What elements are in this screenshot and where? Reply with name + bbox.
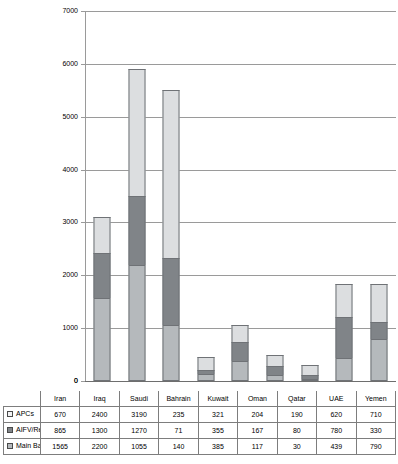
table-cell-saudi: 3190 <box>119 407 158 423</box>
table-cell-iraq: 2400 <box>80 407 119 423</box>
bar-segment <box>267 366 284 375</box>
bars-layer <box>85 11 396 381</box>
bar-column-qatar[interactable] <box>292 11 327 381</box>
table-cell-iraq: 1300 <box>80 423 119 439</box>
table-cell-qatar: 190 <box>277 407 316 423</box>
table-cell-bahrain: 71 <box>159 423 198 439</box>
bar-column-bahrain[interactable] <box>189 11 224 381</box>
table-row: AIFV/Recce/Lt. Tanks86513001270713551678… <box>4 423 396 439</box>
table-header-row: IranIraqSaudiBahrainKuwaitOmanQatarUAEYe… <box>4 391 396 407</box>
table-col-header-yemen: Yemen <box>356 391 395 407</box>
table-cell-yemen: 710 <box>356 407 395 423</box>
plot-wrapper: 010002000300040005000600070000 <box>0 0 398 392</box>
table-col-header-saudi: Saudi <box>119 391 158 407</box>
table-cell-uae: 439 <box>317 439 356 455</box>
bar-segment <box>336 284 353 317</box>
table-cell-uae: 780 <box>317 423 356 439</box>
bar-segment <box>370 284 387 322</box>
y-axis-tick-6000: 6000 <box>62 60 78 67</box>
bar-column-kuwait[interactable] <box>223 11 258 381</box>
table-cell-qatar: 30 <box>277 439 316 455</box>
bar-segment <box>197 374 214 381</box>
y-axis-tick-2000: 2000 <box>62 271 78 278</box>
data-table: IranIraqSaudiBahrainKuwaitOmanQatarUAEYe… <box>3 391 396 455</box>
y-axis-tick-4000: 4000 <box>62 166 78 173</box>
legend-label-text: APCs <box>16 411 34 418</box>
y-axis-tick-1000: 1000 <box>62 324 78 331</box>
y-axis-tick-3000: 3000 <box>62 218 78 225</box>
table-col-header-iraq: Iraq <box>80 391 119 407</box>
y-tickmark-5000 <box>81 117 85 118</box>
bar-column-yemen[interactable] <box>361 11 396 381</box>
legend-swatch-icon <box>7 411 13 417</box>
table-corner-cell <box>4 391 41 407</box>
table-row: Main Battle Tanks15652200105514038511730… <box>4 439 396 455</box>
bar-segment <box>163 90 180 259</box>
table-col-header-qatar: Qatar <box>277 391 316 407</box>
y-tickmark-2000 <box>81 275 85 276</box>
table-col-header-iran: Iran <box>40 391 79 407</box>
legend-label-text: Main Battle Tanks <box>16 443 40 450</box>
bar-segment <box>232 361 249 381</box>
bar-stack <box>301 365 318 381</box>
table-cell-iran: 865 <box>40 423 79 439</box>
table-col-header-bahrain: Bahrain <box>159 391 198 407</box>
legend-swatch-icon <box>7 443 13 449</box>
table-cell-iran: 1565 <box>40 439 79 455</box>
bar-stack <box>232 325 249 381</box>
table-row: APCs67024003190235321204190620710 <box>4 407 396 423</box>
y-tickmark-3000 <box>81 222 85 223</box>
table-cell-bahrain: 140 <box>159 439 198 455</box>
table-cell-yemen: 330 <box>356 423 395 439</box>
bar-segment <box>232 325 249 342</box>
bar-segment <box>163 325 180 381</box>
bar-stack <box>163 90 180 381</box>
legend-row-label: APCs <box>4 407 41 423</box>
table-cell-kuwait: 355 <box>198 423 237 439</box>
bar-segment <box>94 217 111 252</box>
legend-label-text: AIFV/Recce/Lt. Tanks <box>16 427 40 434</box>
table-cell-saudi: 1270 <box>119 423 158 439</box>
y-axis-tick-labels: 010002000300040005000600070000 <box>0 0 82 392</box>
bar-segment <box>370 339 387 381</box>
bar-segment <box>336 317 353 358</box>
table-cell-qatar: 80 <box>277 423 316 439</box>
bar-segment <box>336 358 353 381</box>
y-axis-tick-0: 0 <box>74 377 78 384</box>
y-tickmark-1000 <box>81 328 85 329</box>
bar-segment <box>267 355 284 366</box>
table-cell-uae: 620 <box>317 407 356 423</box>
y-axis-tick-7000: 7000 <box>62 7 78 14</box>
bar-stack <box>370 284 387 381</box>
table-col-header-oman: Oman <box>238 391 277 407</box>
table-col-header-uae: UAE <box>317 391 356 407</box>
legend-row-label: AIFV/Recce/Lt. Tanks <box>4 423 41 439</box>
table-cell-iraq: 2200 <box>80 439 119 455</box>
x-axis-line <box>85 381 396 382</box>
bar-column-oman[interactable] <box>258 11 293 381</box>
bar-segment <box>128 69 145 196</box>
bar-column-iran[interactable] <box>85 11 120 381</box>
bar-stack <box>128 69 145 381</box>
y-tickmark-4000 <box>81 170 85 171</box>
bar-segment <box>163 258 180 325</box>
table-cell-kuwait: 385 <box>198 439 237 455</box>
table-cell-iran: 670 <box>40 407 79 423</box>
bar-column-saudi[interactable] <box>154 11 189 381</box>
table-cell-oman: 167 <box>238 423 277 439</box>
table-cell-bahrain: 235 <box>159 407 198 423</box>
bar-segment <box>301 365 318 375</box>
table-cell-oman: 117 <box>238 439 277 455</box>
y-tickmark-6000 <box>81 64 85 65</box>
table-cell-saudi: 1055 <box>119 439 158 455</box>
y-axis-tick-5000: 5000 <box>62 113 78 120</box>
bar-column-uae[interactable] <box>327 11 362 381</box>
table-cell-yemen: 790 <box>356 439 395 455</box>
bar-segment <box>301 379 318 381</box>
y-tickmark-7000 <box>81 11 85 12</box>
legend-swatch-icon <box>7 427 13 433</box>
plot-area <box>85 11 396 381</box>
table-cell-kuwait: 321 <box>198 407 237 423</box>
table-cell-oman: 204 <box>238 407 277 423</box>
bar-column-iraq[interactable] <box>120 11 155 381</box>
